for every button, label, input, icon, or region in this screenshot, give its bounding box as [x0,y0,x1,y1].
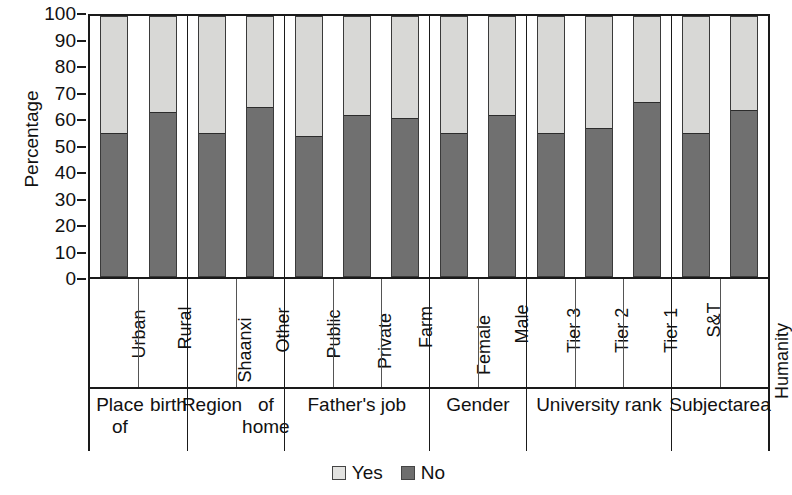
bar-segment-no[interactable] [538,133,564,276]
bar-cell[interactable] [575,16,623,277]
y-axis-tick-mark [77,93,86,95]
bar-segment-no[interactable] [489,115,515,276]
group-label-band: Place ofbirthRegionof homeFather's jobGe… [88,389,770,451]
bar-segment-no[interactable] [296,136,322,276]
stacked-bar[interactable] [440,16,468,277]
bar-cell[interactable] [138,16,186,277]
y-axis-tick-label: 100 [44,3,76,25]
group-label: Subjectarea [671,389,768,451]
y-axis-tick-mark [77,172,86,174]
bar-segment-no[interactable] [586,128,612,276]
bar-segment-yes[interactable] [150,17,176,112]
stacked-bar[interactable] [149,16,177,277]
y-axis-tick-label: 90 [55,30,76,52]
bar-segment-no[interactable] [101,133,127,276]
stacked-bar[interactable] [537,16,565,277]
y-axis-tick-label: 80 [55,56,76,78]
bar-segment-no[interactable] [199,133,225,276]
stacked-bar[interactable] [198,16,226,277]
legend-item[interactable]: Yes [332,462,383,484]
stacked-bar[interactable] [246,16,274,277]
category-label-cell: Shaanxi [188,279,236,387]
bar-group [284,16,429,277]
bar-cell[interactable] [285,16,333,277]
bar-segment-yes[interactable] [489,17,515,115]
group-label: Gender [429,389,526,451]
group-label: Father's job [284,389,429,451]
bar-segment-no[interactable] [634,102,660,276]
bar-segment-no[interactable] [731,110,757,276]
bar-segment-no[interactable] [441,133,467,276]
stacked-bar[interactable] [295,16,323,277]
bar-segment-yes[interactable] [247,17,273,107]
y-axis-tick-label: 20 [55,215,76,237]
bar-segment-yes[interactable] [199,17,225,133]
bar-cell[interactable] [527,16,575,277]
bar-segment-yes[interactable] [392,17,418,118]
bar-segment-yes[interactable] [634,17,660,102]
bar-group [526,16,671,277]
y-axis: 1009080706050403020100 [0,0,88,293]
y-axis-tick-mark [77,13,86,15]
bar-segment-yes[interactable] [101,17,127,133]
stacked-bar[interactable] [585,16,613,277]
stacked-bar[interactable] [633,16,661,277]
bar-group [187,16,284,277]
bar-group [671,16,768,277]
category-label-cell: S&T [672,279,720,387]
dark-square-swatch [401,466,415,480]
bar-segment-yes[interactable] [586,17,612,128]
y-axis-tick-label: 60 [55,109,76,131]
group-label-line: Subject [669,394,732,416]
bar-segment-yes[interactable] [344,17,370,115]
y-axis-tick-mark [77,66,86,68]
category-label-cell: Urban [90,279,138,387]
bar-segment-yes[interactable] [538,17,564,133]
stacked-bar[interactable] [730,16,758,277]
y-axis-tick-label: 50 [55,136,76,158]
y-axis-tick-mark [77,225,86,227]
stacked-bar[interactable] [100,16,128,277]
chart-legend: YesNo [0,462,777,484]
category-label-band: UrbanRuralShaanxiOtherPublicPrivateFarmF… [88,279,770,389]
bar-segment-no[interactable] [683,133,709,276]
bar-cell[interactable] [236,16,284,277]
stacked-bar[interactable] [391,16,419,277]
category-label-cell: Tier 2 [575,279,623,387]
group-label: Regionof home [187,389,284,451]
bar-segment-no[interactable] [247,107,273,276]
stacked-bar[interactable] [682,16,710,277]
category-group: ShaanxiOther [187,279,284,387]
stacked-bar[interactable] [488,16,516,277]
category-group: Tier 3Tier 2Tier 1 [526,279,671,387]
category-label-cell: Private [333,279,381,387]
bar-cell[interactable] [90,16,138,277]
bar-cell[interactable] [333,16,381,277]
category-group: UrbanRural [90,279,187,387]
bar-segment-no[interactable] [344,115,370,276]
category-label: Humanity [773,323,791,399]
bar-cell[interactable] [478,16,526,277]
bar-cell[interactable] [623,16,671,277]
bar-segment-no[interactable] [392,118,418,276]
legend-item[interactable]: No [401,462,445,484]
y-axis-tick-label: 0 [65,268,76,290]
stacked-bar[interactable] [343,16,371,277]
group-label-line: Place of [90,394,150,438]
bar-cell[interactable] [381,16,429,277]
y-axis-tick-mark [77,278,86,280]
bar-cell[interactable] [672,16,720,277]
bar-segment-yes[interactable] [731,17,757,110]
bar-segment-yes[interactable] [296,17,322,136]
bar-cell[interactable] [430,16,478,277]
bar-segment-no[interactable] [150,112,176,276]
y-axis-tick-label: 30 [55,189,76,211]
bar-cell[interactable] [720,16,768,277]
category-label-cell: Humanity [720,279,768,387]
y-axis-tick-label: 10 [55,242,76,264]
bar-cell[interactable] [188,16,236,277]
y-axis-tick-mark [77,252,86,254]
bar-segment-yes[interactable] [441,17,467,133]
bar-segment-yes[interactable] [683,17,709,133]
group-label-line: Region [182,394,242,416]
